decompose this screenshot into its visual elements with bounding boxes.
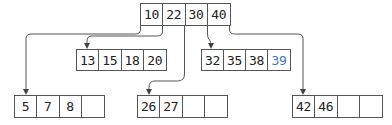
empty-key-cell: [205, 96, 227, 117]
key-cell: 32: [202, 50, 224, 70]
key-cell: 27: [160, 96, 182, 117]
leaf-node-42: 42 46: [292, 95, 383, 118]
key-cell: 15: [99, 50, 121, 70]
key-cell: 26: [138, 96, 160, 117]
leaf-node-26: 26 27: [137, 95, 228, 118]
key-cell: 8: [60, 96, 82, 117]
key-cell: 10: [141, 4, 163, 25]
key-cell: 5: [15, 96, 37, 117]
edge-root-to-child-32: [208, 25, 212, 45]
key-cell: 30: [186, 4, 208, 25]
key-cell: 22: [163, 4, 185, 25]
empty-key-cell: [360, 96, 382, 117]
empty-key-cell: [183, 96, 205, 117]
empty-key-cell: [338, 96, 360, 117]
root-node: 10 22 30 40: [140, 3, 231, 26]
key-cell: 20: [144, 50, 166, 70]
key-cell: 7: [37, 96, 59, 117]
key-cell: 38: [246, 50, 268, 70]
empty-key-cell: [82, 96, 104, 117]
key-cell: 13: [77, 50, 99, 70]
key-cell: 46: [315, 96, 337, 117]
child-node-32: 32 35 38 39: [201, 49, 291, 71]
b-tree-diagram: 10 22 30 40 13 15 18 20 32 35 38 39 5 7 …: [0, 0, 392, 125]
child-node-13: 13 15 18 20: [76, 49, 167, 71]
key-cell: 40: [208, 4, 230, 25]
highlighted-key-cell: 39: [268, 50, 290, 70]
key-cell: 35: [224, 50, 246, 70]
key-cell: 42: [293, 96, 315, 117]
key-cell: 18: [122, 50, 144, 70]
leaf-node-5: 5 7 8: [14, 95, 105, 118]
